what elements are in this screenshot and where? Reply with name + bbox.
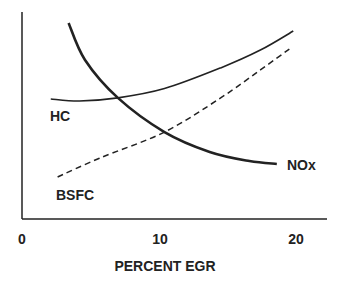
x-axis-label: PERCENT EGR (114, 258, 215, 274)
x-tick-10: 10 (152, 231, 168, 247)
x-tick-0: 0 (18, 231, 26, 247)
series-layer (51, 23, 293, 177)
series-line-hc (51, 31, 293, 101)
chart: 0 10 20 PERCENT EGR HC NOx BSFC (0, 0, 343, 290)
series-label-hc: HC (50, 108, 70, 124)
series-label-nox: NOx (287, 157, 316, 173)
series-label-bsfc: BSFC (56, 187, 94, 203)
series-line-bsfc (58, 47, 292, 177)
x-tick-20: 20 (288, 231, 304, 247)
series-line-nox (69, 23, 277, 164)
